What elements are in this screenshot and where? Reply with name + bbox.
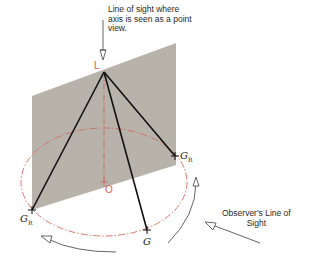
point-O-label: O <box>105 184 113 195</box>
point-GR-right-label: GR <box>180 150 193 163</box>
top-line-of-sight-arrow <box>100 20 106 60</box>
top-line-of-sight-caption: Line of sight where axis is seen as a po… <box>108 5 192 34</box>
diagram-canvas <box>0 0 316 269</box>
point-GR-left-label: GR <box>20 213 33 226</box>
rotation-arrow-left <box>41 236 116 252</box>
rotation-arrow-right <box>168 177 199 243</box>
point-L-label: L <box>94 60 100 71</box>
point-G-label: G <box>143 236 151 247</box>
observer-line-of-sight-caption: Observer's Line of Sight <box>222 209 291 228</box>
